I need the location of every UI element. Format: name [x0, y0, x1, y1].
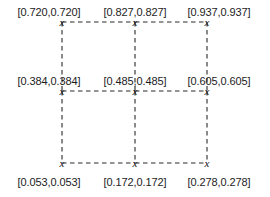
node-coordinate-label: [0.172,0.172]: [104, 176, 167, 188]
diagram-canvas: [0.720,0.720]x[0.827,0.827]x[0.937,0.937…: [0, 0, 270, 197]
node-coordinate-label: [0.720,0.720]: [18, 6, 81, 18]
node-cross-marker-icon: x: [205, 17, 210, 28]
node-coordinate-label: [0.937,0.937]: [188, 6, 251, 18]
node-cross-marker-icon: x: [205, 86, 210, 97]
node-coordinate-label: [0.053,0.053]: [18, 176, 81, 188]
node-coordinate-label: [0.278,0.278]: [188, 176, 251, 188]
node-cross-marker-icon: x: [205, 158, 210, 169]
node-cross-marker-icon: x: [133, 17, 138, 28]
node-cross-marker-icon: x: [60, 86, 65, 97]
node-cross-marker-icon: x: [133, 86, 138, 97]
node-cross-marker-icon: x: [60, 17, 65, 28]
node-coordinate-label: [0.384,0.384]: [18, 75, 81, 87]
node-cross-marker-icon: x: [60, 158, 65, 169]
node-coordinate-label: [0.605,0.605]: [188, 75, 251, 87]
node-cross-marker-icon: x: [133, 158, 138, 169]
